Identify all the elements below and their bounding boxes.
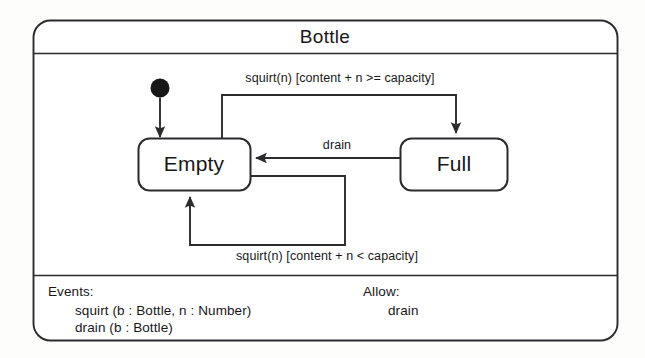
allow-item-drain: drain — [388, 303, 419, 319]
allow-heading: Allow: — [363, 284, 400, 300]
class-title: Bottle — [300, 26, 350, 48]
transition-label-empty-to-full: squirt(n) [content + n >= capacity] — [245, 71, 434, 85]
state-label-empty: Empty — [164, 152, 225, 176]
transition-label-full-to-empty: drain — [323, 138, 351, 152]
class-frame — [34, 21, 618, 341]
statechart-diagram: Bottle Empty Full squirt(n) [content + n… — [0, 0, 645, 358]
events-item-squirt: squirt (b : Bottle, n : Number) — [75, 303, 251, 319]
events-heading: Events: — [48, 284, 94, 300]
events-item-drain: drain (b : Bottle) — [75, 320, 173, 336]
transition-label-empty-self: squirt(n) [content + n < capacity] — [236, 249, 418, 263]
state-label-full: Full — [437, 152, 472, 176]
initial-pseudostate-icon — [151, 79, 170, 98]
